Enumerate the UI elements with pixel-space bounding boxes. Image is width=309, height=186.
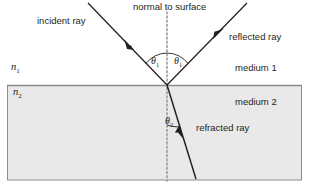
medium-1-label: medium 1 <box>235 63 277 73</box>
angle-of-reflection-label: θ1 <box>174 56 182 69</box>
theta-refraction-subscript: 2 <box>170 121 173 128</box>
n2-subscript: 2 <box>18 92 22 100</box>
incident-ray-label: incident ray <box>37 16 86 26</box>
n1-subscript: 1 <box>16 67 20 75</box>
refractive-index-n2-label: n2 <box>13 87 22 100</box>
medium-2-label: medium 2 <box>235 97 277 107</box>
normal-to-surface-label: normal to surface <box>133 2 206 12</box>
refractive-index-n1-label: n1 <box>11 62 20 75</box>
angle-of-refraction-label: θ2 <box>165 116 173 129</box>
reflected-ray-arrowhead-icon <box>213 28 223 39</box>
diagram-canvas <box>0 0 309 186</box>
reflected-ray-label: reflected ray <box>229 32 281 42</box>
angle-of-incidence-label: θ1 <box>151 56 159 69</box>
theta-incidence-subscript: 1 <box>156 61 159 68</box>
optics-refraction-diagram: normal to surface incident ray reflected… <box>0 0 309 186</box>
refracted-ray-label: refracted ray <box>196 123 249 133</box>
incident-ray-arrowhead-icon <box>124 40 134 50</box>
theta-reflection-subscript: 1 <box>179 61 182 68</box>
